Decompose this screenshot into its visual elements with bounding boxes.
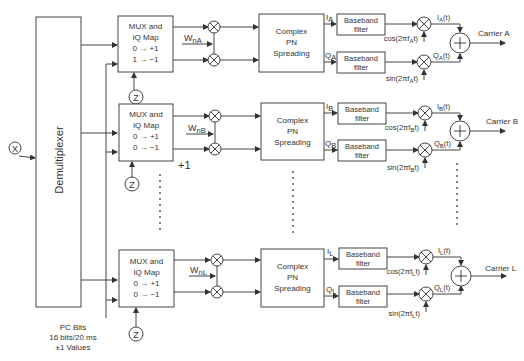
i-label-a: IA: [326, 13, 333, 24]
filter-label-line1: Baseband: [346, 288, 380, 297]
input-arrow: [19, 156, 35, 158]
qt-label-a: QA(t): [433, 51, 450, 61]
filter-label-line1: Baseband: [345, 105, 379, 114]
it-to-sum-b: [432, 113, 460, 120]
q-label-l: QL: [326, 285, 336, 296]
multicarrier-transmitter-diagram: X Demultiplexer PC Bits 16 bits/20 ms ±1…: [0, 0, 524, 361]
pn-label-line3: Spreading: [274, 138, 310, 147]
filter-label-line2: filter: [354, 25, 369, 34]
pn-label-line1: Complex: [277, 116, 309, 125]
carrier-label-a: Carrier A: [478, 29, 510, 38]
dots-mux-column: [159, 174, 161, 230]
filter-label-line2: filter: [356, 297, 371, 306]
qt-label-l: QL(t): [434, 283, 451, 293]
pn-label-line1: Complex: [276, 27, 308, 36]
it-label-l: IL(t): [438, 246, 451, 256]
it-label-b: IB(t): [437, 102, 451, 112]
mux-map-line3: 0 → +1: [132, 44, 159, 53]
sin-label-l: sin(2πfLt): [389, 309, 421, 319]
branch-b: MUX and IQ Map 0 → +1 0 → −1 +1 Z WnB Co…: [119, 102, 518, 191]
q-label-b: QB: [325, 139, 336, 150]
sin-label-a: sin(2πfAt): [386, 74, 419, 84]
qt-label-b: QB(t): [434, 139, 451, 149]
mux-map-line4: 0 → −1: [133, 143, 160, 152]
mux-label-line2: IQ Map: [132, 33, 159, 42]
filter-label-line2: filter: [355, 114, 370, 123]
it-to-sum-a: [431, 24, 460, 32]
demultiplexer-block: Demultiplexer: [36, 17, 81, 307]
dots-carrier-column: [456, 163, 458, 225]
filter-label-line1: Baseband: [344, 54, 378, 63]
cos-label-l: cos(2πfLt): [386, 267, 420, 277]
pc-bits-line1: PC Bits: [60, 323, 87, 332]
carrier-label-l: Carrier L: [485, 264, 517, 273]
mux-map-line3: 0 → +1: [133, 132, 160, 141]
i-label-l: IL: [327, 247, 333, 258]
pn-label-line2: PN: [286, 38, 297, 47]
filter-label-line1: Baseband: [345, 142, 379, 151]
mux-map-line4: 0 → −1: [133, 290, 160, 299]
pn-label-line3: Spreading: [274, 284, 310, 293]
branch-a: MUX and IQ Map 0 → +1 1 → −1 Z WnA Compl…: [118, 13, 510, 104]
filter-label-line2: filter: [354, 63, 369, 72]
mux-label-line1: MUX and: [130, 257, 163, 266]
walsh-label-b: WnB: [188, 123, 206, 135]
pc-bits-line3: ±1 Values: [56, 343, 91, 352]
it-to-sum-l: [433, 257, 461, 265]
cos-label-b: cos(2πfBt): [385, 123, 420, 133]
pn-label-line3: Spreading: [273, 49, 309, 58]
demultiplexer-label: Demultiplexer: [53, 126, 65, 194]
input-x-node: X: [9, 142, 35, 158]
branch-l: MUX and IQ Map 0 → +1 0 → −1 Z WnL Compl…: [119, 246, 517, 341]
walsh-label-a: WnA: [184, 33, 202, 45]
z-label-b: Z: [129, 180, 135, 190]
it-label-a: IA(t): [437, 13, 451, 23]
pn-label-line2: PN: [287, 273, 298, 282]
z-label-l: Z: [133, 330, 139, 340]
filter-label-line1: Baseband: [346, 250, 380, 259]
q-label-a: QA: [325, 51, 336, 62]
plus-one-label: +1: [178, 159, 191, 171]
filter-label-line2: filter: [356, 259, 371, 268]
pc-bits-label: PC Bits 16 bits/20 ms ±1 Values: [49, 323, 97, 352]
filter-label-line2: filter: [355, 151, 370, 160]
mux-label-line2: IQ Map: [133, 268, 160, 277]
pn-label-line2: PN: [287, 127, 298, 136]
sin-label-b: sin(2πfBt): [387, 163, 420, 173]
walsh-label-l: WnL: [190, 265, 207, 277]
pc-bits-line2: 16 bits/20 ms: [49, 333, 97, 342]
carrier-label-b: Carrier B: [486, 117, 518, 126]
ellipsis-dots: [159, 163, 458, 233]
mux-label-line1: MUX and: [129, 22, 162, 31]
cos-label-a: cos(2πfAt): [384, 34, 419, 44]
dots-pn-column: [292, 171, 294, 233]
mux-map-line3: 0 → +1: [133, 279, 160, 288]
z-label-a: Z: [133, 93, 139, 103]
mux-label-line1: MUX and: [129, 110, 162, 119]
input-x-label: X: [12, 144, 18, 154]
i-label-b: IB: [326, 102, 333, 113]
pn-label-line1: Complex: [277, 262, 309, 271]
mux-map-line4: 1 → −1: [132, 55, 159, 64]
mux-label-line2: IQ Map: [133, 121, 160, 130]
filter-label-line1: Baseband: [344, 16, 378, 25]
